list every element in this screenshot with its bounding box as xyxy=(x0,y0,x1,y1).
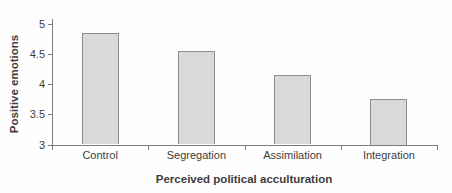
y-tick-label: 3 xyxy=(19,139,45,151)
y-tick-mark xyxy=(48,84,52,85)
x-category-label: Integration xyxy=(363,149,415,161)
x-tick-mark xyxy=(148,146,149,150)
x-category-label: Segregation xyxy=(167,149,226,161)
y-tick-label: 4.5 xyxy=(19,48,45,60)
y-tick-label: 4 xyxy=(19,78,45,90)
x-axis-title: Perceived political acculturation xyxy=(156,173,332,185)
y-tick-label: 5 xyxy=(19,18,45,30)
x-tick-mark xyxy=(245,146,246,150)
bar-segregation xyxy=(178,51,215,145)
x-tick-mark xyxy=(341,146,342,150)
bar-chart: Positive emotions Perceived political ac… xyxy=(0,0,452,193)
y-tick-mark xyxy=(48,24,52,25)
y-tick-mark xyxy=(48,54,52,55)
x-tick-mark xyxy=(52,146,53,150)
y-tick-mark xyxy=(48,114,52,115)
bar-integration xyxy=(370,99,407,144)
y-axis-line xyxy=(52,19,53,145)
bar-assimilation xyxy=(274,75,311,145)
x-tick-mark xyxy=(437,146,438,150)
bar-control xyxy=(82,33,119,145)
x-category-label: Control xyxy=(82,149,117,161)
y-tick-label: 3.5 xyxy=(19,108,45,120)
x-category-label: Assimilation xyxy=(263,149,322,161)
